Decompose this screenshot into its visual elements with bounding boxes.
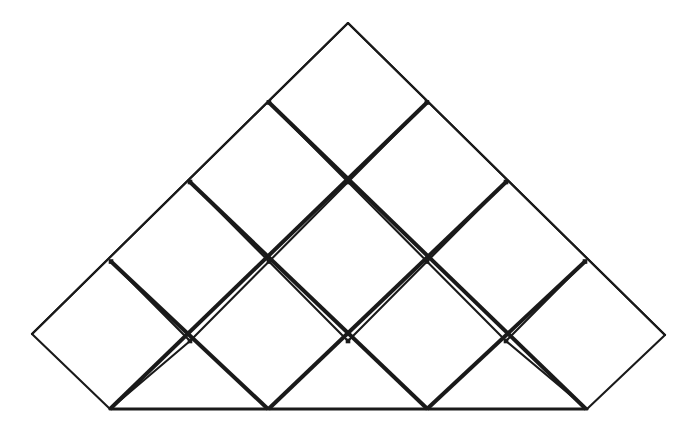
joint-r3-b <box>267 259 272 264</box>
joint-r3-c <box>425 259 430 264</box>
joint-r3-a <box>109 259 114 264</box>
joint-r4-c <box>346 339 351 344</box>
joint-r3-d <box>583 259 588 264</box>
joint-r4-b <box>188 339 193 344</box>
joint-r1-l <box>267 100 272 105</box>
joint-r2-c <box>346 180 351 185</box>
diamond-lattice-figure <box>0 0 700 429</box>
joint-r4-d <box>504 339 509 344</box>
joint-r2-r <box>504 180 509 185</box>
joint-r2-l <box>188 180 193 185</box>
joint-r1-r <box>425 100 430 105</box>
